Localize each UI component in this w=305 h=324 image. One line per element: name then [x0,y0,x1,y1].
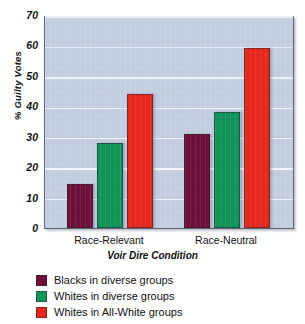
y-tick-label-30: 30 [10,131,38,143]
legend-item: Whites in All-White groups [36,304,276,320]
y-tick-label-60: 60 [10,39,38,51]
legend-item: Whites in diverse groups [36,288,276,304]
legend-label: Whites in diverse groups [54,291,174,302]
y-tick-label-10: 10 [10,192,38,204]
bar [67,184,93,228]
gridline-10 [45,199,293,201]
legend-item: Blacks in diverse groups [36,272,276,288]
bar-series-layer [45,17,293,228]
legend-label: Blacks in diverse groups [54,275,173,286]
legend-swatch-icon [36,275,47,286]
x-tick-label-1: Race-Relevant [59,234,159,246]
gridline-20 [45,168,293,170]
gridline-60 [45,47,293,49]
x-axis-title: Voir Dire Condition [0,250,305,261]
chart-legend: Blacks in diverse groupsWhites in divers… [36,272,276,320]
plot-area [44,16,294,229]
legend-swatch-icon [36,291,47,302]
gridline-70 [45,16,293,18]
x-tick-label-2: Race-Neutral [176,234,276,246]
legend-swatch-icon [36,307,47,318]
gridline-50 [45,77,293,79]
bar [127,94,153,228]
y-tick-label-70: 70 [10,9,38,21]
gridline-30 [45,138,293,140]
bar [97,143,123,228]
bar [184,134,210,228]
y-tick-label-40: 40 [10,100,38,112]
gridline-40 [45,108,293,110]
y-tick-label-20: 20 [10,161,38,173]
y-tick-label-0: 0 [10,222,38,234]
legend-label: Whites in All-White groups [54,307,182,318]
y-tick-label-50: 50 [10,70,38,82]
bar [214,112,240,228]
